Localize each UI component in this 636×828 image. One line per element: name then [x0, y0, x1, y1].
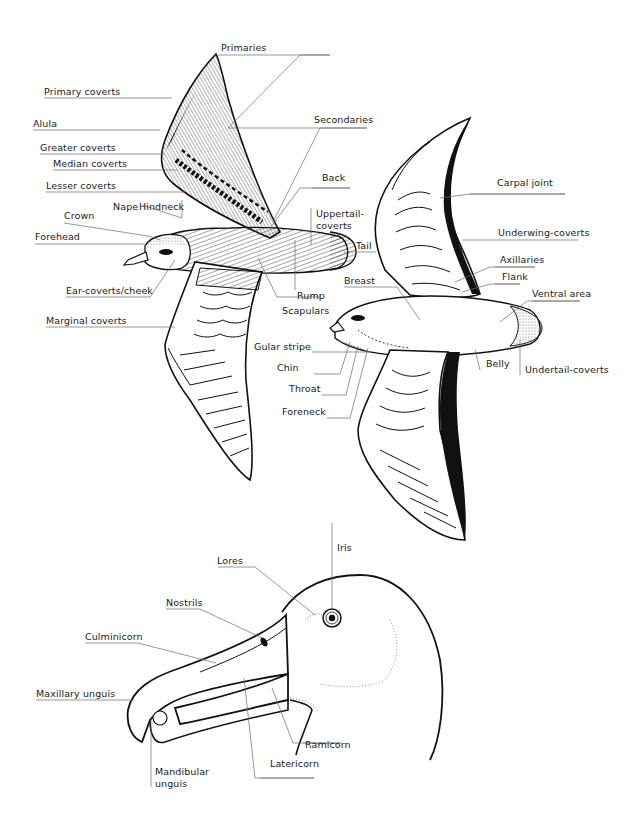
label-underwing-coverts: Underwing-coverts	[498, 227, 589, 238]
label-belly: Belly	[486, 358, 510, 369]
label-mandibular-unguis-line2: unguis	[155, 778, 187, 789]
label-latericorn: Latericorn	[270, 758, 319, 769]
label-iris: Iris	[337, 542, 352, 553]
label-ear-coverts-cheek: Ear-coverts/cheek	[66, 285, 153, 296]
label-nape: Nape	[113, 201, 138, 212]
label-undertail-coverts: Undertail-coverts	[525, 364, 609, 375]
label-tail: Tail	[356, 240, 372, 251]
label-chin: Chin	[277, 362, 299, 373]
label-breast: Breast	[344, 275, 375, 286]
label-ventral-area: Ventral area	[532, 288, 591, 299]
label-uppertail-coverts-line1: Uppertail-	[316, 208, 364, 219]
label-back: Back	[322, 172, 345, 183]
label-hindneck: Hindneck	[139, 201, 184, 212]
label-foreneck: Foreneck	[282, 406, 326, 417]
label-lores: Lores	[217, 555, 243, 566]
label-median-coverts: Median coverts	[53, 158, 127, 169]
label-maxillary-unguis: Maxillary unguis	[36, 688, 115, 699]
label-rump: Rump	[297, 290, 325, 301]
label-greater-coverts: Greater coverts	[40, 142, 116, 153]
label-uppertail-coverts-line2: coverts	[316, 220, 352, 231]
label-lesser-coverts: Lesser coverts	[46, 180, 116, 191]
label-alula: Alula	[33, 118, 57, 129]
label-culminicorn: Culminicorn	[85, 631, 143, 642]
label-carpal-joint: Carpal joint	[497, 177, 553, 188]
label-ramicorn: Ramicorn	[305, 739, 351, 750]
label-crown: Crown	[64, 210, 94, 221]
label-secondaries: Secondaries	[314, 114, 373, 125]
label-primaries: Primaries	[221, 42, 266, 53]
label-axillaries: Axillaries	[500, 254, 544, 265]
label-mandibular-unguis-line1: Mandibular	[155, 766, 209, 777]
label-forehead: Forehead	[35, 231, 80, 242]
label-nostrils: Nostrils	[166, 597, 203, 608]
label-primary-coverts: Primary coverts	[44, 86, 120, 97]
label-throat: Throat	[289, 383, 320, 394]
label-gular-stripe: Gular stripe	[254, 341, 311, 352]
label-scapulars: Scapulars	[282, 305, 329, 316]
bird-topography-diagram: Primaries Primary coverts Alula Secondar…	[0, 0, 636, 828]
label-marginal-coverts: Marginal coverts	[46, 315, 127, 326]
label-flank: Flank	[502, 271, 528, 282]
